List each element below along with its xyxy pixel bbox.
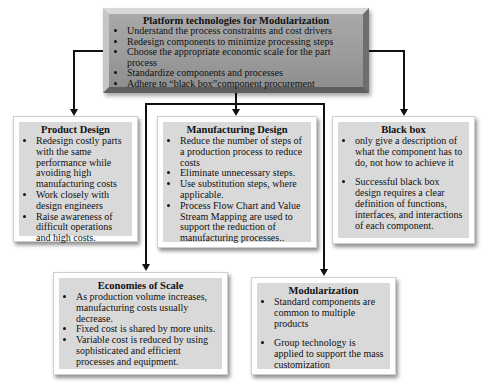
- list-item: Successful black box design requires a c…: [355, 177, 465, 231]
- list-item: Understand the process constraints and c…: [127, 26, 359, 37]
- black-box-box: Black box only give a description of wha…: [332, 116, 475, 244]
- connector-line: [403, 50, 405, 110]
- bullet-list: As production volume increases, manufact…: [63, 292, 218, 368]
- list-item: Choose the appropriate economic scale fo…: [127, 47, 359, 68]
- list-item: Reduce the number of steps of a producti…: [180, 136, 307, 168]
- modularization-box: Modularization Standard components are c…: [251, 277, 396, 375]
- economies-of-scale-box: Economies of Scale As production volume …: [53, 272, 228, 375]
- product-design-box: Product Design Redesign costly parts wit…: [13, 116, 138, 242]
- list-item: Adhere to “black box”component procureme…: [127, 79, 359, 90]
- list-item: Raise awareness of difficult operations …: [36, 212, 128, 244]
- arrow-down-icon: [400, 109, 408, 116]
- connector-line: [235, 93, 237, 110]
- list-item: Group technology is applied to support t…: [274, 338, 386, 370]
- bullet-list: Reduce the number of steps of a producti…: [167, 136, 307, 244]
- connector-line: [145, 103, 147, 265]
- list-item: only give a description of what the comp…: [355, 136, 465, 168]
- list-item: Work closely with design engineers: [36, 190, 128, 212]
- arrow-down-icon: [232, 109, 240, 116]
- list-item: Standard components are common to multip…: [274, 297, 386, 329]
- bullet-list: Standard components are common to multip…: [261, 297, 386, 371]
- list-item: Redesign costly parts with the same perf…: [36, 136, 128, 190]
- arrow-down-icon: [142, 264, 150, 271]
- arrow-down-icon: [70, 109, 78, 116]
- bullet-list: Redesign costly parts with the same perf…: [23, 136, 128, 244]
- bullet-list: Understand the process constraints and c…: [113, 26, 359, 90]
- platform-technologies-box: Platform technologies for Modularization…: [103, 8, 369, 93]
- manufacturing-design-box: Manufacturing Design Reduce the number o…: [157, 116, 317, 248]
- bullet-list: only give a description of what the comp…: [342, 136, 465, 231]
- list-item: Variable cost is reduced by using sophis…: [76, 335, 218, 367]
- connector-line: [145, 103, 325, 105]
- connector-line: [73, 50, 104, 52]
- list-item: As production volume increases, manufact…: [76, 292, 218, 324]
- list-item: Process Flow Chart and Value Stream Mapp…: [180, 201, 307, 244]
- connector-line: [323, 103, 325, 270]
- arrow-down-icon: [320, 269, 328, 276]
- modularization-diagram: Platform technologies for Modularization…: [0, 0, 484, 386]
- connector-line: [368, 50, 404, 52]
- connector-line: [73, 50, 75, 110]
- list-item: Use substitution steps, where applicable…: [180, 179, 307, 201]
